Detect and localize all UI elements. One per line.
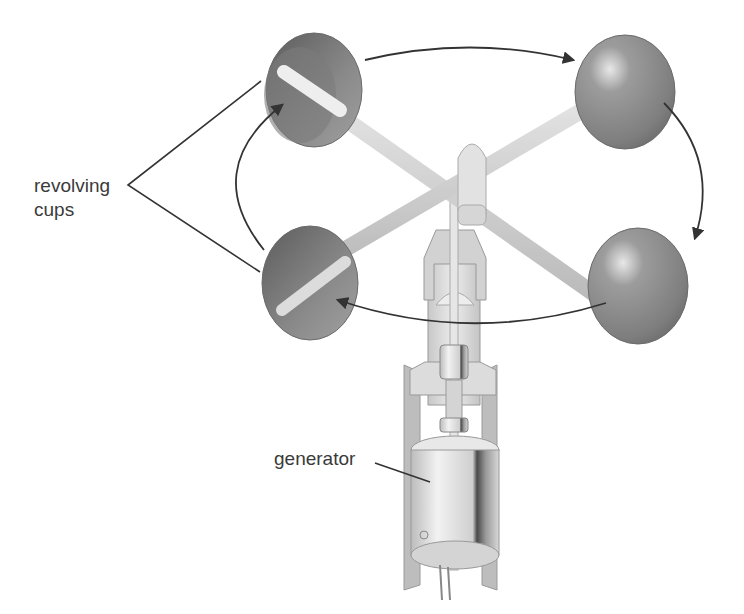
hub xyxy=(458,144,486,225)
cup-top-right xyxy=(575,35,675,149)
anemometer-diagram: revolving cups generator xyxy=(0,0,744,614)
label-line: cups xyxy=(34,198,110,222)
cup-bottom-right xyxy=(588,228,688,344)
arrow-icon xyxy=(365,48,573,61)
label-line: revolving xyxy=(34,174,110,198)
label-revolving-cups: revolving cups xyxy=(34,174,110,222)
cup-bottom-left xyxy=(262,226,358,340)
arrow-icon xyxy=(664,103,703,238)
anemometer-illustration xyxy=(0,0,744,614)
label-generator: generator xyxy=(274,447,355,471)
cup-top-left xyxy=(264,33,362,147)
